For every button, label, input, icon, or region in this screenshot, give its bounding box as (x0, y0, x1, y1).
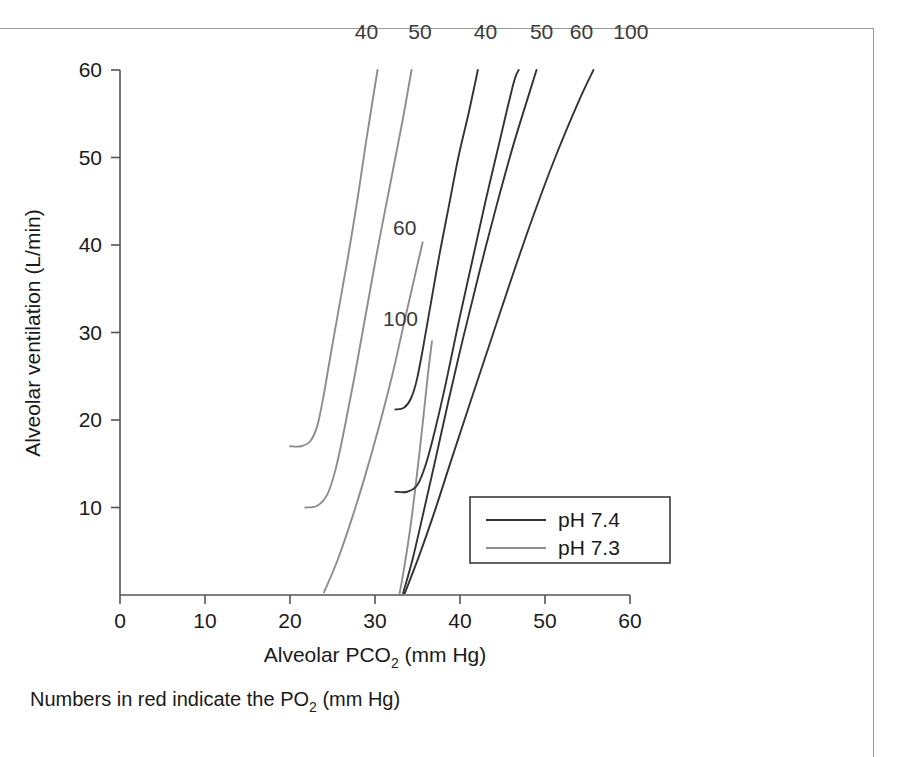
curve-po2-40-ph-7-3 (290, 70, 378, 447)
x-tick-label: 10 (193, 609, 216, 632)
curve-po2-50-ph-7-3 (305, 70, 411, 508)
x-axis-title: Alveolar PCO2 (mm Hg) (264, 643, 487, 671)
figure-caption: Numbers in red indicate the PO2 (mm Hg) (30, 688, 400, 715)
x-tick-label: 0 (114, 609, 126, 632)
curve-label-40-0: 40 (355, 20, 378, 43)
curve-po2-40-ph-7-4 (395, 70, 477, 410)
x-axis-title-tail: (mm Hg) (399, 643, 487, 666)
x-tick-label: 60 (618, 609, 641, 632)
x-axis-ticks: 0102030405060 (114, 595, 642, 632)
curve-label-100-3: 100 (383, 307, 418, 330)
x-tick-label: 30 (363, 609, 386, 632)
y-tick-label: 10 (79, 496, 102, 519)
x-tick-label: 40 (448, 609, 471, 632)
curve-label-50-5: 50 (530, 20, 553, 43)
y-tick-label: 60 (79, 58, 102, 81)
curve-label-60-6: 60 (570, 20, 593, 43)
curve-label-60-2: 60 (393, 216, 416, 239)
figure-caption-sub: 2 (309, 699, 317, 715)
legend-label-1[interactable]: pH 7.3 (558, 536, 620, 559)
curve-label-50-1: 50 (408, 20, 431, 43)
y-tick-label: 40 (79, 233, 102, 256)
curve-label-100-7: 100 (613, 20, 648, 43)
x-tick-label: 50 (533, 609, 556, 632)
y-axis-ticks: 102030405060 (79, 58, 120, 519)
curve-po2-100-ph-7-3 (400, 341, 432, 593)
x-axis-title-sub: 2 (391, 655, 399, 671)
legend-label-0[interactable]: pH 7.4 (558, 508, 620, 531)
y-axis-title: Alveolar ventilation (L/min) (21, 209, 44, 456)
x-tick-label: 20 (278, 609, 301, 632)
curve-label-40-4: 40 (474, 20, 497, 43)
figure-caption-tail: (mm Hg) (317, 688, 400, 710)
y-tick-label: 50 (79, 146, 102, 169)
figure-frame: 0102030405060 102030405060 4050601004050… (0, 0, 909, 757)
curve-labels-layer: 405060100405060100 (355, 20, 649, 330)
chart-legend[interactable]: pH 7.4pH 7.3 (470, 497, 670, 563)
alveolar-ventilation-chart: 0102030405060 102030405060 4050601004050… (0, 0, 909, 757)
y-tick-label: 30 (79, 321, 102, 344)
x-axis-title-main: Alveolar PCO (264, 643, 391, 666)
y-tick-label: 20 (79, 408, 102, 431)
figure-caption-main: Numbers in red indicate the PO (30, 688, 309, 710)
